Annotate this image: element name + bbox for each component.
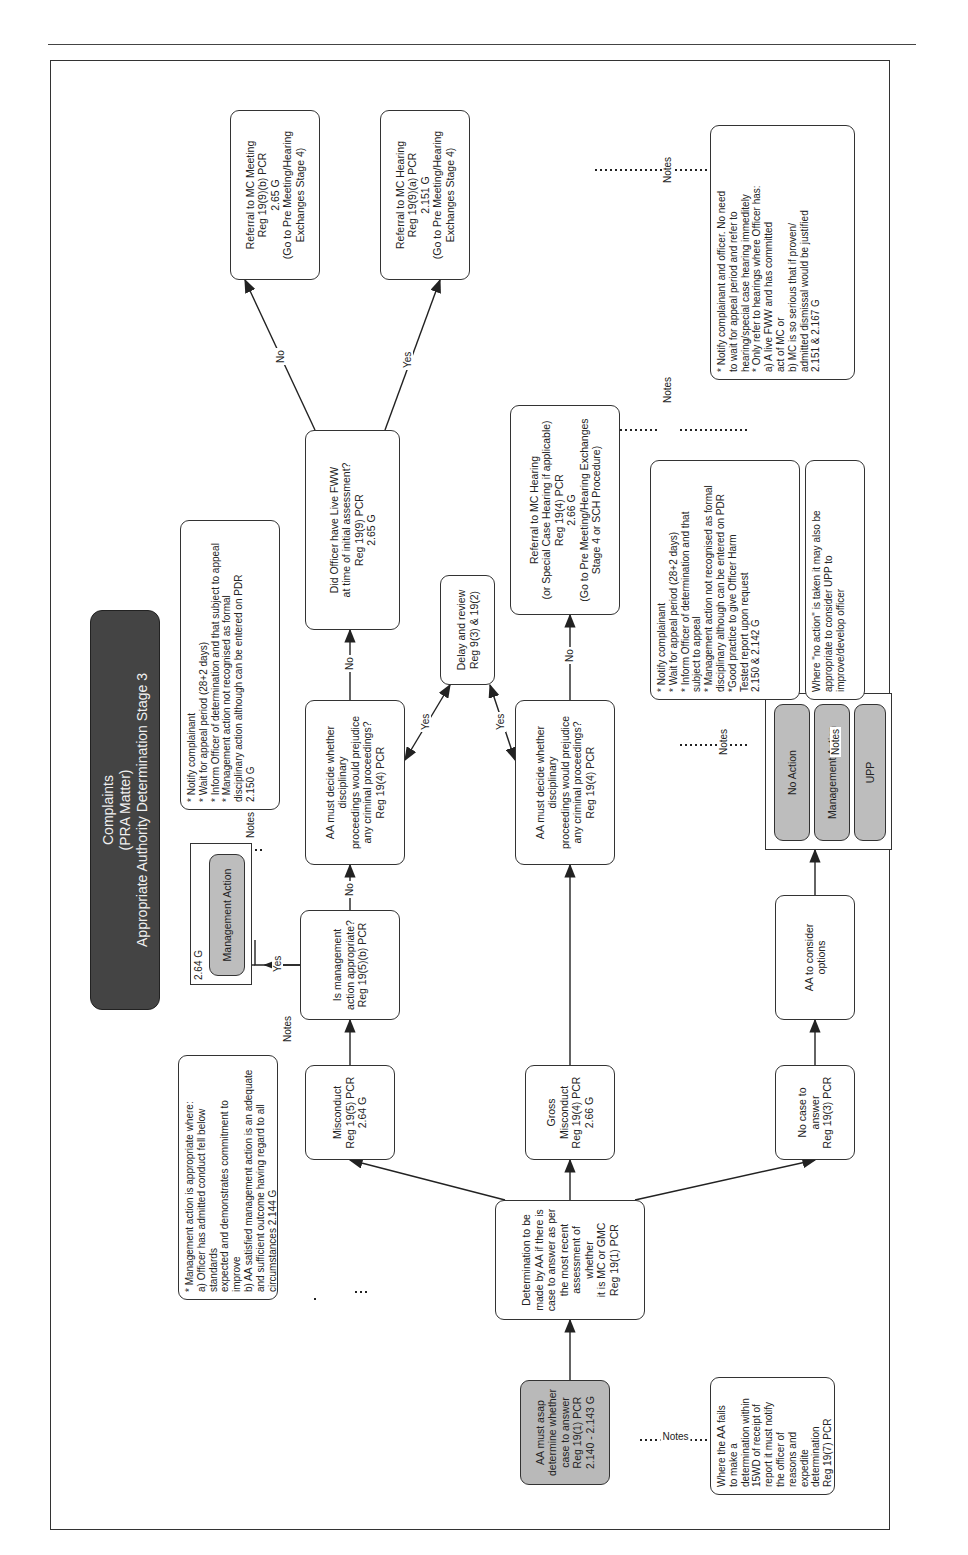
note-options-2: Where "no action" is taken it may also b… xyxy=(805,460,865,700)
note-mgmt-appropriate: * Management action is appropriate where… xyxy=(178,1055,278,1300)
flowchart-canvas: Complaints (PRA Matter) Appropriate Auth… xyxy=(50,60,890,1530)
notes-label: Notes xyxy=(662,375,673,405)
options-group: No Action Management Action UPP xyxy=(765,693,892,850)
title-line-2: (PRA Matter) xyxy=(117,770,134,851)
mc-hearing-gm-node: Referral to MC Hearing (or Special Case … xyxy=(510,405,620,615)
notes-label: Notes xyxy=(245,810,256,840)
note-mc-hearing: * Notify complainant and officer. No nee… xyxy=(710,125,855,380)
mgmt-action-pill: Management Action xyxy=(209,854,245,976)
notes-label: Notes xyxy=(718,727,729,757)
option-upp: UPP xyxy=(854,704,886,841)
mgmt-action-ref: 2.64 G xyxy=(193,950,204,980)
diagram-title: Complaints (PRA Matter) Appropriate Auth… xyxy=(90,610,160,1010)
no-case-node: No case to answer Reg 19(3) PCR xyxy=(775,1065,855,1160)
note-mgmt-action: * Notify complainant * Wait for appeal p… xyxy=(180,520,280,810)
aa-decide-node-2: AA must decide whether disciplinary proc… xyxy=(515,700,615,865)
notes-label: Notes xyxy=(660,1431,690,1442)
no-label: No xyxy=(344,881,355,898)
live-fww-node: Did Officer have Live FWW at time of ini… xyxy=(305,430,400,630)
start-node: AA must asap determine whether case to a… xyxy=(520,1380,610,1485)
note-aa-fails: Where the AA fails to make a determinati… xyxy=(710,1377,835,1495)
misconduct-node: Misconduct Reg 19(5) PCR 2.64 G xyxy=(305,1065,395,1160)
determination-node: Determination to be made by AA if there … xyxy=(495,1200,645,1320)
mc-meeting-node: Referral to MC Meeting Reg 19(9)(b) PCR … xyxy=(230,110,320,280)
aa-decide-node-1: AA must decide whether disciplinary proc… xyxy=(305,700,405,865)
aa-consider-node: AA to consider options xyxy=(775,895,855,1020)
notes-label: Notes xyxy=(662,155,673,185)
yes-label: Yes xyxy=(495,712,506,732)
notes-label: Notes xyxy=(830,727,841,757)
title-line-3: Appropriate Authority Determination Stag… xyxy=(134,673,151,947)
yes-label: Yes xyxy=(402,350,413,370)
gross-misconduct-node: Gross Misconduct Reg 19(4) PCR 2.66 G xyxy=(525,1065,615,1160)
no-label: No xyxy=(564,647,575,664)
option-management-action: Management Action xyxy=(814,704,850,841)
option-no-action: No Action xyxy=(774,704,810,841)
no-label: No xyxy=(344,655,355,672)
no-label: No xyxy=(275,348,286,365)
mgmt-action-group: 2.64 G Management Action xyxy=(190,843,252,985)
delay-review-node: Delay and review Reg 9(3) & 19(2) xyxy=(440,575,495,685)
page-top-rule xyxy=(48,44,916,45)
note-options-1: * Notify complainant * Wait for appeal p… xyxy=(650,460,800,700)
notes-label: Notes xyxy=(282,1014,293,1044)
yes-label: Yes xyxy=(272,954,283,974)
mc-hearing-fww-node: Referral to MC Hearing Reg 19(9)(a) PCR … xyxy=(380,110,470,280)
mgmt-appropriate-node: Is management action appropriate? Reg 19… xyxy=(300,910,400,1020)
yes-label: Yes xyxy=(420,712,431,732)
title-line-1: Complaints xyxy=(100,775,117,845)
